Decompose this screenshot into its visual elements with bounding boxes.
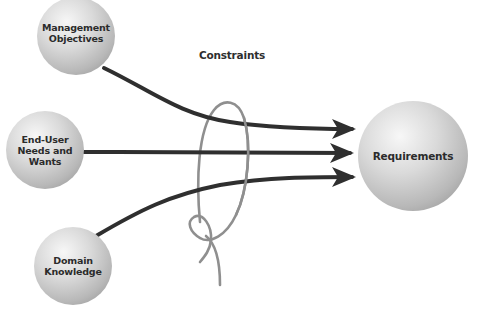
constraints-label: Constraints [196, 49, 268, 61]
sphere-requirements [358, 101, 468, 211]
sphere-end-user [6, 111, 84, 189]
constraint-loop-icon [190, 102, 248, 285]
edge-domain-to-requirements [96, 177, 352, 236]
sphere-management [37, 0, 115, 75]
edge-enduser-to-requirements [84, 152, 350, 153]
edges [84, 68, 352, 236]
edge-management-to-requirements [104, 68, 352, 129]
requirements-diagram [0, 0, 486, 316]
sphere-domain [34, 227, 112, 305]
constraint-loop-front [236, 118, 248, 215]
